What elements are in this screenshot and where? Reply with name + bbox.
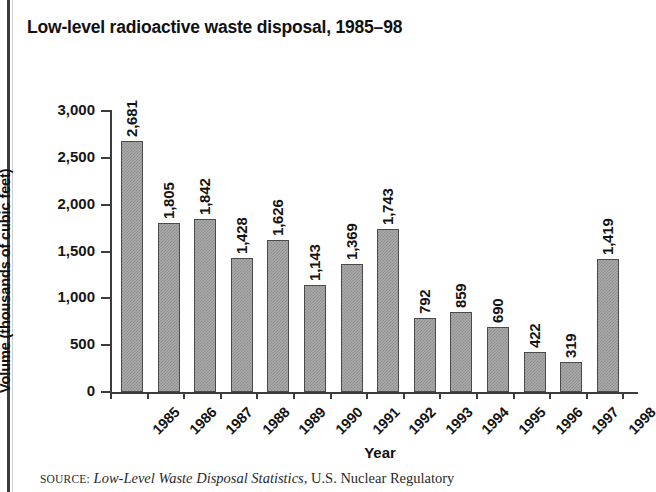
y-axis-tick-label: 3,000 [57, 101, 95, 118]
source-label: SOURCE: [40, 473, 90, 485]
x-axis-title-text: Year [364, 444, 396, 461]
bar-value-label: 859 [452, 283, 469, 307]
x-axis-label: 1992 [405, 404, 439, 438]
bar-value-label: 1,419 [599, 219, 616, 256]
x-axis-label: 1990 [332, 404, 366, 438]
x-axis-label: 1989 [296, 404, 330, 438]
bar-value-label: 319 [562, 334, 579, 358]
x-axis-title: Year [0, 444, 656, 461]
bar[interactable]: 1,805 [158, 223, 180, 392]
x-axis-label: 1996 [552, 404, 586, 438]
x-axis-tick [330, 392, 332, 399]
y-axis-tick-label: 1,500 [57, 242, 95, 259]
y-axis-tick: 1,000 [101, 297, 110, 299]
x-axis-tick [622, 392, 624, 399]
bar[interactable]: 2,681 [121, 141, 143, 392]
bar[interactable]: 1,419 [597, 259, 619, 392]
x-axis-tick [147, 392, 149, 399]
y-axis-tick: 2,000 [101, 204, 110, 206]
y-axis-line [110, 110, 112, 395]
bar[interactable]: 422 [524, 352, 546, 392]
bar-value-label: 1,842 [196, 179, 213, 216]
x-axis-label: 1993 [442, 404, 476, 438]
bar-value-label: 1,626 [269, 199, 286, 236]
y-axis-tick-label: 2,000 [57, 195, 95, 212]
bar[interactable]: 690 [487, 327, 509, 392]
x-axis-label: 1998 [625, 404, 656, 438]
y-axis-tick: 500 [101, 344, 110, 346]
bar[interactable]: 1,626 [267, 240, 289, 392]
source-rest: , U.S. Nuclear Regulatory [304, 470, 455, 486]
bar[interactable]: 1,842 [194, 219, 216, 392]
bar[interactable]: 1,143 [304, 285, 326, 392]
y-axis-tick: 3,000 [101, 110, 110, 112]
bar[interactable]: 859 [450, 312, 472, 392]
y-axis-tick: 1,500 [101, 251, 110, 253]
bar-value-label: 1,805 [160, 182, 177, 219]
bar-value-label: 1,143 [306, 244, 323, 281]
x-axis-label: 1986 [186, 404, 220, 438]
x-axis-tick [366, 392, 368, 399]
y-axis-tick: 2,500 [101, 157, 110, 159]
plot-area: 2,6811,8051,8421,4281,6261,1431,3691,743… [114, 112, 626, 392]
y-axis-tick-label: 1,000 [57, 288, 95, 305]
y-axis-tick: 0 [101, 391, 110, 393]
bar[interactable]: 319 [560, 362, 582, 392]
x-axis-tick [256, 392, 258, 399]
bar-value-label: 1,428 [233, 218, 250, 255]
bar[interactable]: 1,369 [341, 264, 363, 392]
x-axis-label: 1997 [588, 404, 622, 438]
chart-title: Low-level radioactive waste disposal, 19… [27, 17, 402, 38]
source-note: SOURCE: Low-Level Waste Disposal Statist… [40, 470, 656, 487]
bar-value-label: 1,369 [343, 223, 360, 260]
chart-figure: Low-level radioactive waste disposal, 19… [0, 0, 656, 492]
x-axis-label: 1987 [222, 404, 256, 438]
y-axis-tick-label: 500 [70, 335, 95, 352]
x-axis-label: 1995 [515, 404, 549, 438]
source-title: Low-Level Waste Disposal Statistics [94, 470, 304, 486]
x-axis-tick [403, 392, 405, 399]
x-axis-tick [549, 392, 551, 399]
x-axis-tick [110, 392, 112, 399]
x-axis-line [110, 392, 638, 394]
bar[interactable]: 1,428 [231, 258, 253, 392]
y-axis-tick-label: 0 [87, 382, 95, 399]
x-axis-tick [476, 392, 478, 399]
x-axis-tick [439, 392, 441, 399]
x-axis-tick [513, 392, 515, 399]
bar[interactable]: 1,743 [377, 229, 399, 392]
bar-value-label: 792 [416, 289, 433, 313]
bar-value-label: 690 [489, 299, 506, 323]
y-axis-tick-label: 2,500 [57, 148, 95, 165]
bar-value-label: 422 [526, 324, 543, 348]
x-axis-tick [183, 392, 185, 399]
x-axis-tick [220, 392, 222, 399]
bar-value-label: 2,681 [123, 100, 140, 137]
x-axis-label: 1985 [149, 404, 183, 438]
x-axis-tick [293, 392, 295, 399]
x-axis-label: 1991 [369, 404, 403, 438]
x-axis-label: 1988 [259, 404, 293, 438]
x-axis-label: 1994 [479, 404, 513, 438]
y-axis-title-text: Volume (thousands of cubic feet) [0, 168, 13, 393]
bar[interactable]: 792 [414, 318, 436, 392]
bar-value-label: 1,743 [379, 188, 396, 225]
x-axis-tick [586, 392, 588, 399]
